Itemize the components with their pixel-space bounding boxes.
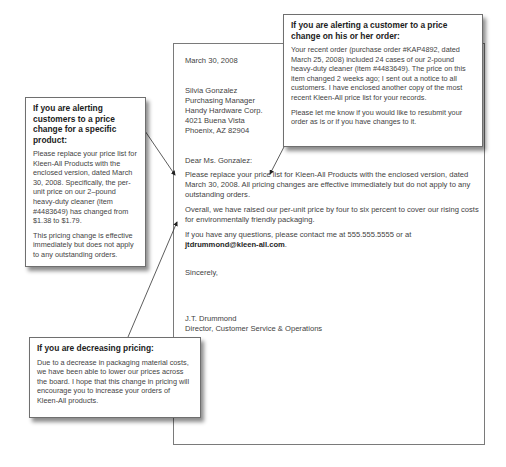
callout-body: Due to a decrease in packaging material … <box>37 358 193 406</box>
callout-decreasing-pricing: If you are decreasing pricing: Due to a … <box>29 337 201 418</box>
contact-email: jtdrummond@kleen-all.com <box>185 240 285 249</box>
recipient-name: Silvia Gonzalez <box>185 86 237 96</box>
recipient-city: Phoenix, AZ 82904 <box>185 126 249 136</box>
recipient-title: Purchasing Manager <box>185 96 255 106</box>
recipient-street: 4021 Buena Vista <box>185 116 245 126</box>
letter-paragraph-3: If you have any questions, please contac… <box>185 230 480 250</box>
letter-paragraph-2: Overall, we have raised our per-unit pri… <box>185 205 480 225</box>
closing: Sincerely, <box>185 268 218 278</box>
callout-order-price-change: If you are alerting a customer to a pric… <box>283 14 483 147</box>
callout-body: Your recent order (purchase order #KAP48… <box>291 45 475 103</box>
callout-product-price-change: If you are alerting customers to a price… <box>25 97 146 267</box>
callout-body: This pricing change is effective immedia… <box>33 231 138 260</box>
salutation: Dear Ms. Gonzalez: <box>185 156 252 166</box>
callout-body: Please replace your price list for Kleen… <box>33 149 138 226</box>
callout-body: Please let me know if you would like to … <box>291 108 475 127</box>
contact-period: . <box>285 240 287 249</box>
callout-heading: If you are decreasing pricing: <box>37 343 193 354</box>
signer-title: Director, Customer Service & Operations <box>185 324 322 334</box>
callout-heading: If you are alerting a customer to a pric… <box>291 20 475 41</box>
recipient-company: Handy Hardware Corp. <box>185 106 263 116</box>
letter-date: March 30, 2008 <box>185 56 238 66</box>
letter-paragraph-1: Please replace your price list for Kleen… <box>185 170 480 200</box>
callout-heading: If you are alerting customers to a price… <box>33 103 138 145</box>
signer-name: J.T. Drummond <box>185 314 236 324</box>
contact-text: If you have any questions, please contac… <box>185 230 411 239</box>
